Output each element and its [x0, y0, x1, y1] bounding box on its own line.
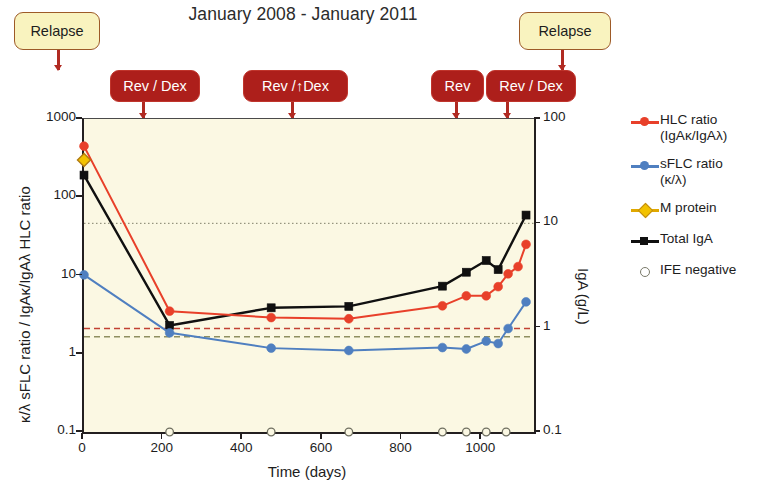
legend-label-line1: IFE negative: [660, 262, 736, 278]
y-tick-right: [534, 117, 540, 119]
data-point: [494, 282, 503, 291]
data-point: [165, 307, 174, 316]
y-tick-right: [534, 430, 540, 432]
annotation-arrow: [506, 102, 509, 118]
series-ife-negative: [166, 428, 510, 436]
legend-key-total-iga: [630, 232, 660, 249]
y-axis-left-title: κ/λ sFLC ratio / IgAκ/IgAλ HLC ratio: [16, 186, 33, 423]
data-point: [482, 257, 490, 265]
x-tick: [400, 433, 402, 439]
x-tick-label: 400: [207, 440, 275, 455]
data-point: [438, 301, 447, 310]
y-tick-left: [76, 352, 82, 354]
data-point: [482, 291, 491, 300]
series-total-iga: [80, 171, 530, 329]
data-point: [462, 268, 470, 276]
y-tick-label-left: 1000: [18, 109, 76, 124]
x-tick: [81, 433, 83, 439]
data-point: [267, 344, 276, 353]
data-point: [438, 343, 447, 352]
legend-item-ife-negative: IFE negative: [630, 262, 766, 280]
annotation-box-rev-dex: Rev /↑Dex: [243, 70, 348, 102]
y-tick-label-right: 100: [543, 109, 581, 124]
x-tick-label: 200: [128, 440, 196, 455]
series-sflc-ratio: [80, 270, 531, 354]
legend-label-hlc-ratio: HLC ratio(IgAκ/IgAλ): [660, 112, 727, 143]
data-point: [494, 339, 503, 348]
legend-marker-open-circle-icon: [640, 267, 650, 277]
annotation-label: Relapse: [538, 23, 591, 39]
legend-marker-diamond-icon: [638, 203, 654, 219]
y-tick-left: [76, 274, 82, 276]
data-point: [80, 171, 88, 179]
data-point: [267, 428, 275, 436]
data-point: [463, 428, 471, 436]
series-hlc-ratio-iga-iga: [80, 142, 531, 323]
x-tick: [479, 433, 481, 439]
legend-label-sflc-ratio: sFLC ratio(κ/λ): [660, 156, 723, 187]
y-tick-label-right: 10: [543, 213, 581, 228]
annotation-label: Rev: [445, 78, 471, 94]
legend-label-total-iga: Total IgA: [660, 231, 713, 247]
annotation-label: Rev / Dex: [123, 78, 187, 94]
series-line: [84, 175, 526, 325]
legend-label-line2: (κ/λ): [660, 172, 723, 188]
annotation-label: Rev /↑Dex: [262, 78, 329, 94]
x-tick-label: 600: [287, 440, 355, 455]
data-point: [514, 262, 523, 271]
y-tick-label-right: 0.1: [543, 422, 581, 437]
series-line: [84, 275, 526, 351]
plot-area: [82, 118, 536, 434]
y-tick-right: [534, 222, 540, 224]
y-axis-right-title: IgA (g/L): [575, 268, 592, 325]
data-point: [522, 211, 530, 219]
data-point: [165, 328, 174, 337]
legend-marker-circle-icon: [640, 161, 649, 170]
x-tick-label: 0: [48, 440, 116, 455]
x-tick: [320, 433, 322, 439]
x-tick: [240, 433, 242, 439]
annotation-arrow: [57, 50, 60, 70]
x-tick: [161, 433, 163, 439]
y-tick-left: [76, 117, 82, 119]
legend-label-ife-negative: IFE negative: [660, 262, 736, 278]
x-tick-label: 800: [367, 440, 435, 455]
legend-marker-square-icon: [640, 237, 648, 245]
data-point: [494, 266, 502, 274]
annotation-arrow: [561, 50, 564, 70]
annotation-box-relapse: Relapse: [14, 12, 100, 50]
legend-key-sflc-ratio: [630, 157, 660, 174]
legend-item-total-iga: Total IgA: [630, 231, 766, 249]
data-point: [482, 337, 491, 346]
legend-label-m-protein: M protein: [660, 200, 717, 216]
data-point: [502, 428, 510, 436]
annotation-arrow: [455, 102, 458, 118]
data-point: [345, 428, 353, 436]
annotation-box-rev: Rev: [431, 70, 484, 102]
legend-marker-circle-icon: [640, 117, 649, 126]
y-tick-right: [534, 326, 540, 328]
legend-label-line1: sFLC ratio: [660, 156, 723, 172]
data-point: [522, 297, 531, 306]
legend-item-m-protein: M protein: [630, 200, 766, 218]
annotation-arrow: [142, 102, 145, 118]
x-axis-title: Time (days): [237, 463, 377, 480]
data-point: [344, 314, 353, 323]
legend-label-line1: Total IgA: [660, 231, 713, 247]
x-tick-label: 1000: [446, 440, 514, 455]
legend-key-m-protein: [630, 201, 660, 218]
legend-label-line1: M protein: [660, 200, 717, 216]
legend-label-line1: HLC ratio: [660, 112, 727, 128]
legend-item-sflc-ratio: sFLC ratio(κ/λ): [630, 156, 766, 187]
annotation-box-rev-dex: Rev / Dex: [110, 70, 200, 102]
data-point: [80, 142, 89, 151]
data-point: [462, 291, 471, 300]
data-point: [439, 428, 447, 436]
annotation-box-rev-dex: Rev / Dex: [486, 70, 576, 102]
annotation-label: Rev / Dex: [499, 78, 563, 94]
data-point: [267, 304, 275, 312]
chart-legend: HLC ratio(IgAκ/IgAλ)sFLC ratio(κ/λ)M pro…: [630, 112, 766, 293]
data-point: [504, 324, 513, 333]
data-point: [522, 240, 531, 249]
legend-key-ife-negative: [630, 263, 660, 280]
